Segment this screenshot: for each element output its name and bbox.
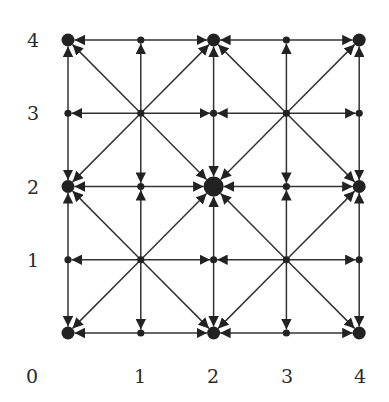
y-axis-label: 3 [27, 104, 39, 123]
directed-edge [218, 260, 286, 329]
graph-node [137, 36, 144, 43]
graph-node [356, 110, 363, 117]
graph-node [137, 329, 144, 336]
x-axis-label: 1 [134, 367, 146, 386]
directed-edge [221, 194, 287, 260]
graph-node [207, 327, 220, 340]
y-axis-label: 2 [27, 177, 39, 196]
directed-edge [286, 113, 354, 182]
graph-node [62, 180, 75, 193]
graph-node [283, 256, 290, 263]
directed-edge [221, 113, 287, 179]
x-axis-label: 0 [26, 367, 38, 386]
graph-node [137, 110, 144, 117]
directed-edge [286, 260, 354, 329]
directed-edge [141, 113, 207, 179]
graph-node [64, 256, 71, 263]
graph-node [210, 110, 217, 117]
graph-node [207, 34, 220, 47]
graph-node [210, 256, 217, 263]
graph-node [62, 34, 75, 47]
directed-edge [73, 113, 141, 182]
directed-edge [141, 194, 207, 260]
graph-node [356, 256, 363, 263]
graph-node [137, 256, 144, 263]
graph-node [283, 110, 290, 117]
directed-edge [286, 191, 354, 260]
y-axis-label: 1 [27, 250, 39, 269]
graph-node [204, 177, 224, 197]
directed-edge [73, 45, 141, 114]
graph-node [353, 180, 366, 193]
graph-node [353, 34, 366, 47]
x-axis-label: 4 [354, 367, 366, 386]
graph-node [137, 183, 144, 190]
directed-edge [141, 45, 209, 114]
directed-edge [286, 45, 354, 114]
y-axis-label: 4 [27, 31, 39, 50]
graph-node [283, 36, 290, 43]
graph-node [353, 327, 366, 340]
graph-node [62, 327, 75, 340]
x-axis-label: 2 [207, 367, 219, 386]
graph-node [283, 183, 290, 190]
x-axis-label: 3 [281, 367, 293, 386]
directed-edge [73, 260, 141, 329]
graph-node [283, 329, 290, 336]
graph-node [64, 110, 71, 117]
directed-edge [73, 191, 141, 260]
directed-edge [141, 260, 209, 329]
grid-graph-diagram [0, 0, 389, 402]
directed-edge [218, 45, 286, 114]
